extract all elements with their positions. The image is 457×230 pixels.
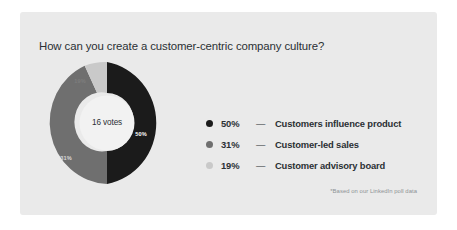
- poll-result-card-canvas: How can you create a customer-centric co…: [0, 0, 457, 230]
- legend-dash: —: [256, 139, 269, 150]
- legend-label: Customer advisory board: [275, 160, 385, 171]
- legend-dot-icon: [206, 162, 213, 169]
- chart-footnote: *Based on our LinkedIn poll data: [330, 188, 417, 194]
- legend-dot-icon: [206, 141, 213, 148]
- legend-percent: 31%: [221, 139, 249, 150]
- legend-item-customer-led-sales[interactable]: 31% — Customer-led sales: [206, 134, 436, 155]
- legend-label: Customers influence product: [275, 118, 401, 129]
- poll-card: How can you create a customer-centric co…: [20, 12, 437, 215]
- legend-percent: 50%: [221, 118, 249, 129]
- legend-dash: —: [256, 160, 269, 171]
- donut-chart-svg: 50% 31% 19%: [46, 60, 168, 184]
- donut-hole: [80, 96, 135, 151]
- legend-dash: —: [256, 118, 269, 129]
- legend-label: Customer-led sales: [275, 139, 359, 150]
- chart-legend: 50% — Customers influence product 31% — …: [206, 113, 436, 176]
- slice-label-31: 31%: [60, 155, 72, 161]
- legend-item-customer-advisory-board[interactable]: 19% — Customer advisory board: [206, 155, 436, 176]
- page-title: How can you create a customer-centric co…: [39, 39, 419, 53]
- slice-label-19: 19%: [74, 78, 86, 84]
- legend-dot-icon: [206, 120, 213, 127]
- legend-item-customers-influence-product[interactable]: 50% — Customers influence product: [206, 113, 436, 134]
- slice-label-50: 50%: [135, 131, 147, 137]
- donut-chart: 50% 31% 19% 16 votes: [46, 60, 168, 184]
- legend-percent: 19%: [221, 160, 249, 171]
